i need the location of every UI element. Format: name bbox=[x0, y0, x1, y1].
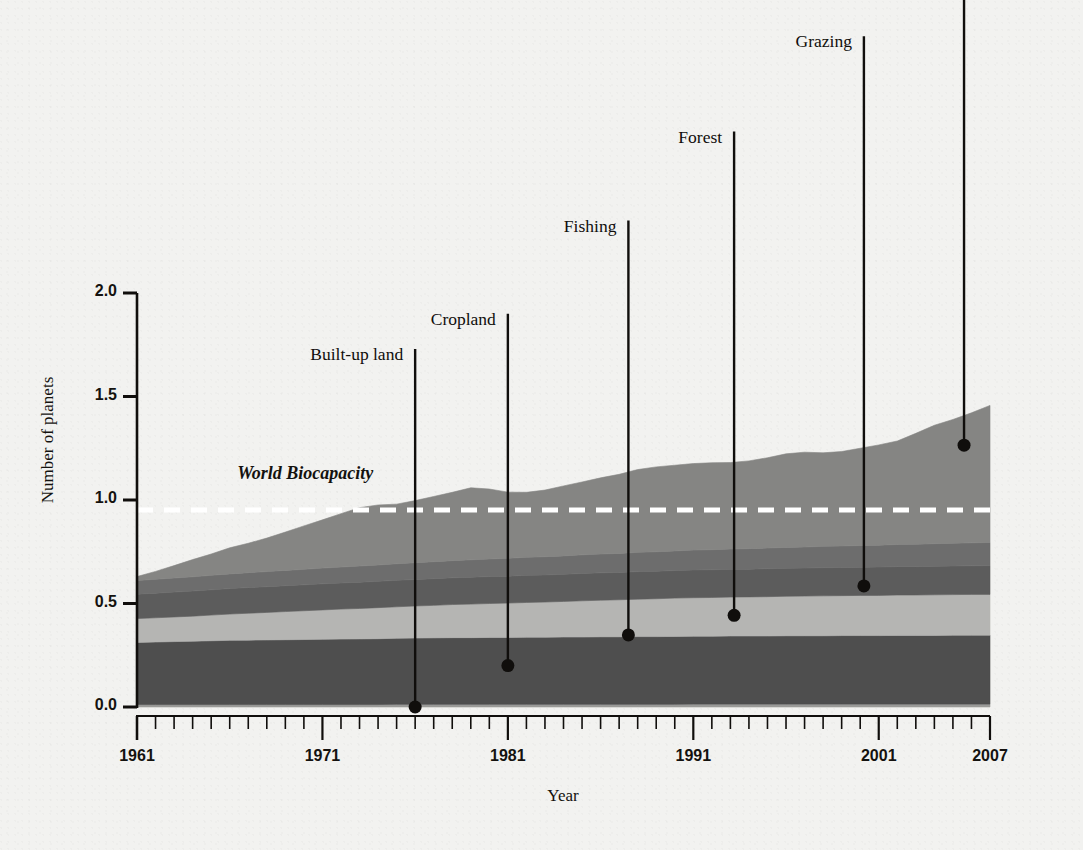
callout-dot-fishing bbox=[622, 628, 635, 641]
x-axis-title: Year bbox=[523, 786, 603, 806]
callout-label-cropland: Cropland bbox=[431, 308, 496, 329]
x-tick-label-2007: 2007 bbox=[950, 747, 1030, 765]
callout-label-built-up-land: Built-up land bbox=[310, 343, 403, 364]
y-tick-label-2: 1.0 bbox=[71, 489, 117, 507]
x-tick-label-1971: 1971 bbox=[282, 747, 362, 765]
callout-label-grazing: Grazing bbox=[796, 31, 852, 52]
callout-dot-carbon bbox=[958, 439, 971, 452]
y-tick-label-3: 1.5 bbox=[71, 386, 117, 404]
callout-dot-forest bbox=[728, 609, 741, 622]
chart-page: 0.0 0.5 1.0 1.5 2.0 1961 1971 1981 1991 … bbox=[0, 0, 1083, 850]
y-axis-title: Number of planets bbox=[38, 340, 58, 540]
y-tick-label-1: 0.5 bbox=[71, 593, 117, 611]
x-tick-label-1991: 1991 bbox=[653, 747, 733, 765]
y-tick-label-4: 2.0 bbox=[71, 282, 117, 300]
callout-label-forest: Forest bbox=[678, 126, 722, 147]
callout-label-fishing: Fishing bbox=[564, 215, 617, 236]
y-tick-label-0: 0.0 bbox=[71, 696, 117, 714]
callout-dot-cropland bbox=[501, 659, 514, 672]
stacked-area-chart bbox=[0, 0, 1083, 850]
callout-dot-built-up-land bbox=[409, 701, 422, 714]
x-tick-label-2001: 2001 bbox=[839, 747, 919, 765]
world-biocapacity-label: World Biocapacity bbox=[237, 463, 373, 484]
x-tick-label-1961: 1961 bbox=[97, 747, 177, 765]
x-tick-label-1981: 1981 bbox=[468, 747, 548, 765]
callout-dot-grazing bbox=[857, 579, 870, 592]
area-series-cropland bbox=[137, 635, 990, 704]
